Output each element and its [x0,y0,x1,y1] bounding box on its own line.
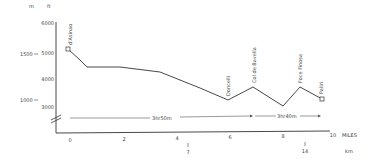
ft-tick-5000: 5000 [41,50,54,56]
x-axis [56,131,330,133]
km-tick-14: 14 [302,148,308,154]
ft-tick-3000: 3000 [41,104,54,110]
miles-axis-label: MILES [342,132,357,138]
mile-tick-0: 0 [68,137,71,143]
place-label-finosa: Foce Finosa [297,54,303,83]
m-tick-1500: 1500 [20,51,33,57]
km-tick-7: 7 [186,149,189,155]
elevation-profile-chart: m ft 6000 5000 4000 3000 1500 1000 d'Asi… [0,0,375,166]
ft-tick-6000: 6000 [41,20,54,26]
place-label-bavella: Col de Bavella [251,47,257,83]
unit-ft-label: ft [47,3,51,9]
m-tick-1000: 1000 [20,97,33,103]
unit-m-label: m [29,3,34,9]
place-label-doncelli: Doncelli [225,76,231,96]
duration-label-2: 3hr40m [277,113,297,119]
mile-tick-4: 4 [175,135,178,141]
place-label-paliri: Paliri [318,82,324,94]
mile-tick-2: 2 [122,136,125,142]
ft-tick-4000: 4000 [41,76,54,82]
chart-canvas: m ft 6000 5000 4000 3000 1500 1000 d'Asi… [0,0,375,166]
km-axis-label: km [345,148,353,154]
start-marker-icon [66,47,70,51]
end-marker-icon [320,97,324,101]
elevation-line [68,49,322,106]
mile-tick-8: 8 [281,133,284,139]
mile-tick-10: 10 [330,132,336,138]
mile-tick-6: 6 [228,134,231,140]
place-label-asinao: d'Asinao [67,24,73,45]
duration-label-1: 3hr50m [152,115,172,121]
